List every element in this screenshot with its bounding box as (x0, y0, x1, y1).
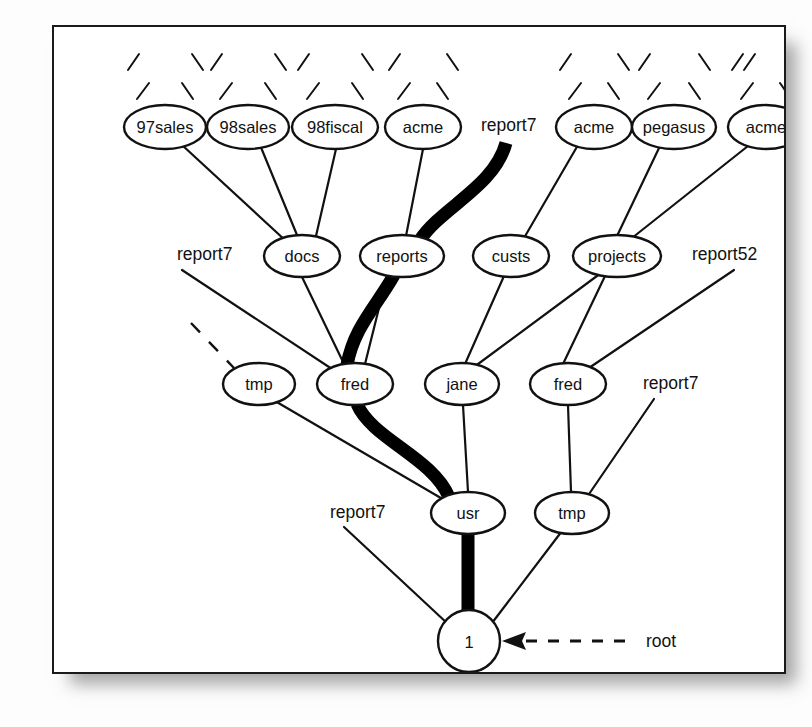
node-root[interactable]: 1 (438, 610, 500, 672)
diagram-figure-panel: 97sales 98sales 98fiscal acme acme (52, 25, 786, 674)
node-label: projects (588, 247, 646, 265)
node-label: acme (403, 118, 443, 136)
node-jane[interactable]: jane (425, 363, 499, 405)
node-label: fred (554, 375, 582, 393)
dashed-dangling-edge (191, 323, 234, 368)
node-docs[interactable]: docs (264, 235, 340, 277)
node-label: pegasus (643, 118, 705, 136)
node-level-3: tmp fred jane fred (223, 363, 606, 405)
node-reports[interactable]: reports (360, 235, 444, 277)
label-report7-top: report7 (481, 115, 536, 135)
node-tmp-left[interactable]: tmp (223, 363, 295, 405)
label-report7-right: report7 (643, 373, 698, 393)
node-label: fred (341, 375, 369, 393)
node-label: usr (457, 504, 480, 522)
node-97sales[interactable]: 97sales (124, 105, 206, 149)
node-pegasus[interactable]: pegasus (632, 105, 716, 149)
node-98fiscal[interactable]: 98fiscal (292, 105, 378, 149)
label-report7-left: report7 (177, 244, 232, 264)
node-label: custs (492, 247, 531, 265)
node-label: 98fiscal (307, 118, 363, 136)
version-tree-svg: 97sales 98sales 98fiscal acme acme (54, 27, 784, 672)
arrow-head-icon (502, 632, 526, 650)
root-pointer-arrow (502, 632, 632, 650)
node-label: docs (285, 247, 320, 265)
node-label: tmp (558, 504, 586, 522)
node-acme-projects-branch[interactable]: acme (728, 105, 784, 149)
node-custs[interactable]: custs (473, 235, 549, 277)
node-level-1: 97sales 98sales 98fiscal acme acme (124, 105, 784, 149)
label-root: root (646, 631, 676, 651)
node-98sales[interactable]: 98sales (207, 105, 289, 149)
node-label: 98sales (220, 118, 277, 136)
node-usr[interactable]: usr (431, 492, 505, 534)
node-label: 1 (464, 633, 473, 651)
label-report7-bottom: report7 (330, 502, 385, 522)
top-dangling-stubs (128, 54, 784, 99)
node-tmp-right[interactable]: tmp (535, 492, 609, 534)
node-label: acme (746, 118, 784, 136)
node-label: acme (574, 118, 614, 136)
node-label: reports (376, 247, 427, 265)
node-fred-left[interactable]: fred (317, 363, 393, 405)
node-label: jane (445, 375, 477, 393)
node-acme-custs-branch[interactable]: acme (556, 105, 632, 149)
node-level-4: usr tmp (431, 492, 609, 534)
node-fred-right[interactable]: fred (530, 363, 606, 405)
screenshot-stage: 97sales 98sales 98fiscal acme acme (0, 0, 812, 727)
label-report52: report52 (692, 244, 757, 264)
node-label: tmp (245, 375, 273, 393)
node-label: 97sales (137, 118, 194, 136)
node-projects[interactable]: projects (573, 235, 661, 277)
node-acme-docs-branch[interactable]: acme (385, 105, 461, 149)
node-level-2: docs reports custs projects (264, 235, 661, 277)
